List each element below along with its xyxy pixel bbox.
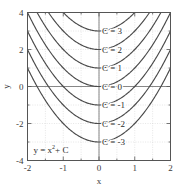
- curve-label: C = -3: [102, 137, 126, 147]
- chart-figure: -2-1012 -4-2024 C = 3C = 3C = 2C = 2C = …: [0, 0, 179, 192]
- x-tick-label: -1: [60, 163, 68, 173]
- curve-label: C = 0: [102, 82, 123, 92]
- y-tick-label: 4: [19, 8, 24, 18]
- curve-label: C = 3: [102, 26, 123, 36]
- curve-label: C = -2: [102, 119, 125, 129]
- y-tick-label: 0: [19, 82, 24, 92]
- x-tick-label: 2: [168, 163, 173, 173]
- x-tick-label: -2: [24, 163, 32, 173]
- y-tick-label: 2: [19, 45, 24, 55]
- parabola-family-plot: -2-1012 -4-2024 C = 3C = 3C = 2C = 2C = …: [0, 0, 179, 192]
- equation-tail: + C: [55, 145, 68, 155]
- y-tick-label: -2: [16, 119, 24, 129]
- x-axis-title: x: [97, 176, 102, 186]
- x-tick-label: 1: [133, 163, 138, 173]
- x-tick-label: 0: [97, 163, 102, 173]
- equation-annotation: y = x 2 + C: [34, 144, 69, 155]
- y-tick-label: -4: [16, 156, 24, 166]
- curve-label: C = -1: [102, 100, 125, 110]
- y-axis-title: y: [1, 84, 11, 89]
- curve-label: C = 2: [102, 45, 122, 55]
- equation-text: y = x: [34, 145, 53, 155]
- curve-label: C = 1: [102, 63, 122, 73]
